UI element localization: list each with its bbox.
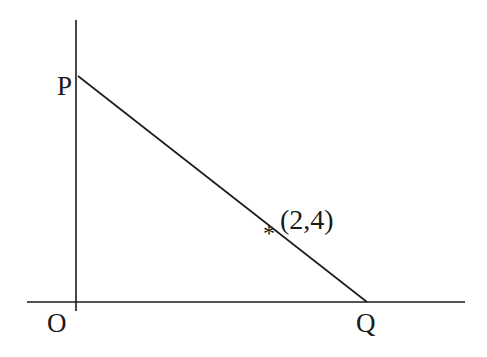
label-origin: O [47, 310, 67, 337]
label-q: Q [356, 310, 376, 337]
label-point-coordinates: (2,4) [280, 206, 334, 234]
point-marker-asterisk: * [263, 221, 275, 245]
label-p: P [57, 73, 72, 100]
coordinate-diagram [0, 0, 487, 357]
segment-pq [78, 76, 367, 302]
